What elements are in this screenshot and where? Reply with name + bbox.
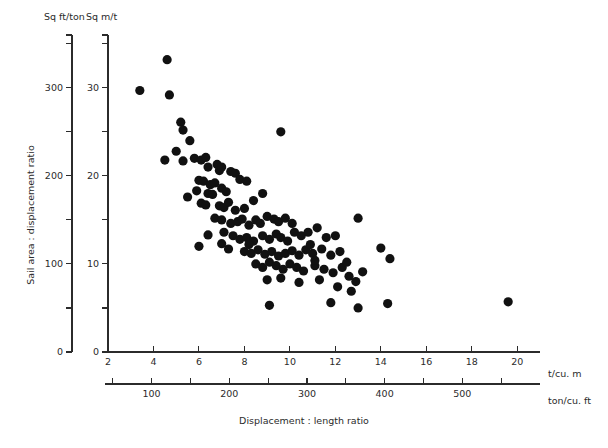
data-point — [347, 287, 356, 296]
data-point — [276, 273, 285, 282]
svg-text:6: 6 — [196, 356, 202, 367]
x-axis-secondary: 100200300400500 — [105, 378, 540, 399]
data-point — [208, 190, 217, 199]
data-point — [201, 200, 210, 209]
data-point — [265, 301, 274, 310]
data-point — [165, 90, 174, 99]
svg-text:16: 16 — [420, 356, 432, 367]
data-point — [310, 256, 319, 265]
x-axis-primary-unit-label: t/cu. m — [548, 368, 581, 379]
y-axis-secondary: 0102030 — [87, 35, 108, 357]
data-point — [201, 153, 210, 162]
data-point — [354, 214, 363, 223]
data-point — [178, 156, 187, 165]
data-point — [322, 233, 331, 242]
data-point — [331, 231, 340, 240]
data-point — [317, 244, 326, 253]
svg-text:400: 400 — [376, 388, 394, 399]
svg-text:10: 10 — [87, 258, 99, 269]
data-point — [351, 277, 360, 286]
data-point — [258, 189, 267, 198]
data-point — [240, 204, 249, 213]
data-point — [178, 126, 187, 135]
data-point — [326, 298, 335, 307]
data-point — [358, 267, 367, 276]
data-point — [231, 206, 240, 215]
y-axis-secondary-unit-label: Sq m/t — [86, 11, 118, 22]
data-point — [263, 275, 272, 284]
y-axis-primary: 0100200300 — [45, 35, 72, 357]
scatter-points-layer — [135, 55, 513, 313]
data-point — [354, 303, 363, 312]
data-point — [315, 275, 324, 284]
data-point — [333, 282, 342, 291]
svg-text:30: 30 — [87, 82, 99, 93]
svg-text:100: 100 — [45, 258, 63, 269]
data-point — [306, 240, 315, 249]
svg-text:200: 200 — [45, 170, 63, 181]
data-point — [160, 155, 169, 164]
data-point — [203, 162, 212, 171]
data-point — [185, 136, 194, 145]
svg-text:14: 14 — [375, 356, 387, 367]
svg-text:0: 0 — [93, 346, 99, 357]
data-point — [385, 254, 394, 263]
svg-text:0: 0 — [57, 346, 63, 357]
svg-text:300: 300 — [298, 388, 316, 399]
data-point — [244, 240, 253, 249]
svg-text:500: 500 — [453, 388, 471, 399]
data-point — [256, 219, 265, 228]
svg-text:100: 100 — [143, 388, 161, 399]
data-point — [217, 215, 226, 224]
x-axis-secondary-unit-label: ton/cu. ft — [548, 395, 591, 406]
data-point — [276, 127, 285, 136]
data-point — [326, 251, 335, 260]
svg-text:18: 18 — [466, 356, 478, 367]
svg-text:20: 20 — [511, 356, 523, 367]
svg-text:8: 8 — [241, 356, 247, 367]
data-point — [328, 268, 337, 277]
svg-text:12: 12 — [329, 356, 341, 367]
data-point — [163, 55, 172, 64]
data-point — [217, 239, 226, 248]
data-point — [172, 147, 181, 156]
data-point — [242, 177, 251, 186]
data-point — [313, 223, 322, 232]
svg-text:20: 20 — [87, 170, 99, 181]
data-point — [303, 228, 312, 237]
svg-text:4: 4 — [150, 356, 156, 367]
data-point — [192, 186, 201, 195]
data-point — [183, 192, 192, 201]
data-point — [376, 243, 385, 252]
svg-text:200: 200 — [220, 388, 238, 399]
data-point — [224, 198, 233, 207]
x-axis-title: Displacement : length ratio — [239, 415, 369, 426]
svg-text:300: 300 — [45, 82, 63, 93]
data-point — [176, 118, 185, 127]
data-point — [238, 214, 247, 223]
y-axis-title: Sail area : displacement ratio — [25, 145, 36, 285]
data-point — [194, 242, 203, 251]
data-point — [335, 247, 344, 256]
data-point — [249, 196, 258, 205]
data-point — [504, 297, 513, 306]
data-point — [222, 187, 231, 196]
scatter-chart-figure: Sq ft/ton Sq m/t 0100200300 0102030 2468… — [0, 0, 608, 448]
data-point — [283, 236, 292, 245]
data-point — [203, 230, 212, 239]
data-point — [217, 162, 226, 171]
svg-text:2: 2 — [105, 356, 111, 367]
data-point — [288, 219, 297, 228]
data-point — [294, 278, 303, 287]
data-point — [299, 266, 308, 275]
y-axis-primary-unit-label: Sq ft/ton — [44, 11, 85, 22]
chart-svg: Sq ft/ton Sq m/t 0100200300 0102030 2468… — [0, 0, 608, 448]
data-point — [135, 86, 144, 95]
svg-text:10: 10 — [284, 356, 296, 367]
data-point — [342, 258, 351, 267]
data-point — [383, 299, 392, 308]
data-point — [319, 265, 328, 274]
data-point — [219, 228, 228, 237]
x-axis-primary: 2468101214161820 — [105, 346, 540, 367]
